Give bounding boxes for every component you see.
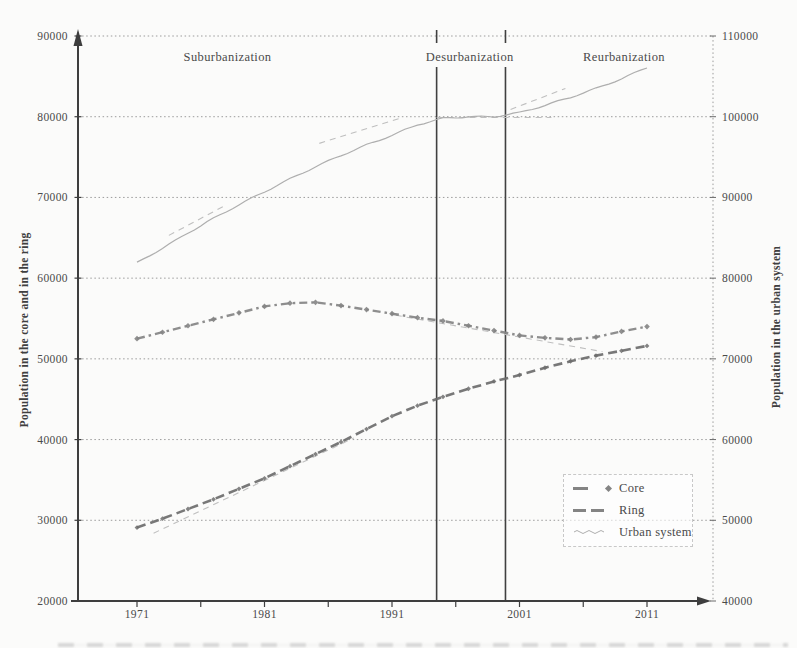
ring-marker <box>619 348 624 353</box>
y-right-tick-label: 50000 <box>722 514 753 526</box>
core-marker <box>593 334 599 340</box>
core-marker <box>644 324 650 330</box>
core-line-icon <box>573 486 613 491</box>
x-tick-label: 2001 <box>507 608 532 620</box>
scanned-chart-figure: 2000030000400005000060000700008000090000… <box>0 0 797 648</box>
y-axis-title-left: Population in the core and in the ring <box>18 233 30 428</box>
core-marker <box>134 336 140 342</box>
y-left-tick-label: 80000 <box>37 111 68 123</box>
ring-line-icon <box>573 509 613 512</box>
core-marker <box>287 300 293 306</box>
legend-item-ring: Ring <box>573 501 692 521</box>
core-marker <box>236 310 242 316</box>
chart-plot-area: 2000030000400005000060000700008000090000… <box>0 0 797 648</box>
y-axis-title-right: Population in the urban system <box>770 246 782 408</box>
y-right-tick-label: 110000 <box>722 30 758 42</box>
core-marker <box>568 337 574 343</box>
trend-line <box>396 315 603 351</box>
core-marker <box>517 333 523 339</box>
x-tick-label: 1971 <box>125 608 150 620</box>
y-left-tick-label: 60000 <box>37 272 68 284</box>
core-marker <box>313 300 319 306</box>
urban-system-line-icon <box>573 528 613 536</box>
legend-label-ring: Ring <box>619 503 645 518</box>
y-right-tick-label: 70000 <box>722 353 753 365</box>
x-tick-label: 2011 <box>635 608 659 620</box>
y-left-tick-label: 20000 <box>37 595 68 607</box>
core-marker <box>338 303 344 309</box>
legend-item-core: Core <box>573 479 692 499</box>
core-marker <box>619 329 625 335</box>
y-left-tick-label: 40000 <box>37 434 68 446</box>
y-right-tick-label: 40000 <box>722 595 753 607</box>
x-tick-label: 1991 <box>380 608 405 620</box>
cropped-caption-remnant <box>58 643 788 647</box>
legend-label-urban-system: Urban system <box>619 525 692 540</box>
legend-box: Core Ring Urban system <box>563 474 693 547</box>
core-marker <box>160 329 166 335</box>
y-axis-arrow-icon <box>74 29 83 46</box>
phase-label-desurbanization: Desurbanization <box>426 50 514 65</box>
y-left-tick-label: 30000 <box>37 514 68 526</box>
y-left-tick-label: 90000 <box>37 30 68 42</box>
ring-marker <box>594 353 599 358</box>
core-marker <box>262 304 268 310</box>
legend-label-core: Core <box>619 481 645 496</box>
ring-marker <box>645 344 650 349</box>
y-left-tick-label: 50000 <box>37 353 68 365</box>
y-left-tick-label: 70000 <box>37 191 68 203</box>
x-axis-arrow-icon <box>697 597 711 606</box>
phase-label-suburbanization: Suburbanization <box>184 50 272 65</box>
trend-line <box>169 206 224 235</box>
y-right-tick-label: 90000 <box>722 191 753 203</box>
phase-label-reurbanization: Reurbanization <box>583 50 665 65</box>
ring-marker <box>211 497 216 502</box>
y-right-tick-label: 80000 <box>722 272 753 284</box>
core-marker <box>542 335 548 341</box>
y-right-tick-label: 60000 <box>722 434 753 446</box>
x-tick-label: 1981 <box>252 608 277 620</box>
trend-line <box>319 118 402 144</box>
core-marker <box>185 323 191 329</box>
trend-line <box>154 438 354 533</box>
y-right-tick-label: 100000 <box>722 111 759 123</box>
legend-item-urban-system: Urban system <box>573 522 692 542</box>
core-marker <box>364 307 370 313</box>
core-marker <box>389 311 395 317</box>
trend-line <box>511 88 566 109</box>
core-marker <box>211 316 217 322</box>
urban-system-line <box>137 68 647 262</box>
